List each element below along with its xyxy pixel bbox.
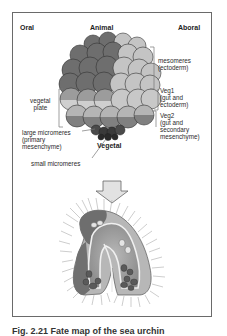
down-arrow-icon [96, 181, 128, 203]
vegetal-header: Vegetal [97, 142, 122, 149]
veg1-label: Veg1 (gut and ectoderm) [160, 87, 188, 108]
pluteus-larva [59, 198, 165, 307]
mesomeres-label: mesomeres (ectoderm) [158, 57, 191, 71]
large-micromeres-label: large micromeres (primary mesenchyme) [22, 129, 71, 150]
small-micromeres-label: small micromeres [31, 160, 80, 167]
veg2-tier [66, 105, 154, 128]
animal-hemisphere [59, 32, 161, 95]
veg2-label: Veg2 (gut and secondary mesenchyme) [160, 112, 200, 140]
vegetal-plate-label: vegetal plate [30, 97, 50, 111]
figure-caption: Fig. 2.21 Fate map of the sea urchin [12, 326, 165, 336]
